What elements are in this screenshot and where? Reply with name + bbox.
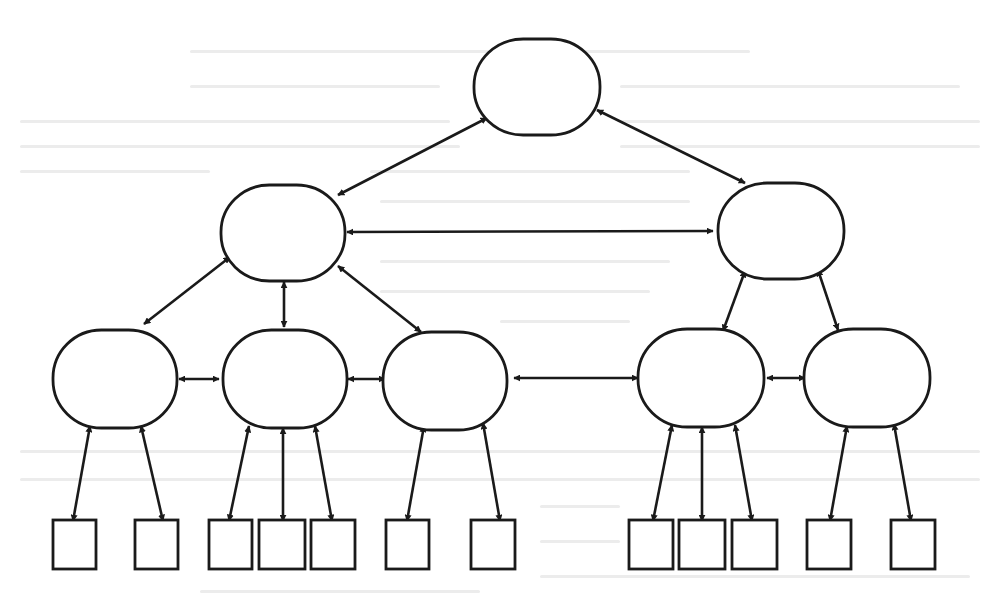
edge-m1-m2 (347, 231, 713, 232)
tree-node-l5 (804, 329, 930, 427)
leaf-box-b8 (629, 520, 673, 569)
edge-l5-b11 (830, 426, 847, 521)
tree-node-l2 (223, 330, 347, 428)
edge-l1-b2 (141, 426, 163, 521)
edge-root-m2 (597, 110, 745, 183)
edge-l5-b12 (894, 424, 911, 521)
edge-m2-l5 (818, 270, 838, 330)
leaf-box-b12 (891, 520, 935, 569)
leaf-box-b10 (732, 520, 777, 569)
leaf-box-b9 (679, 520, 725, 569)
edge-l2-b3 (229, 426, 249, 521)
leaf-box-b6 (386, 520, 429, 569)
edge-l1-b1 (73, 426, 90, 521)
tree-node-root (474, 39, 600, 135)
leaf-box-b7 (471, 520, 515, 569)
tree-node-m2 (718, 183, 844, 279)
edge-m1-l1 (144, 257, 230, 324)
edge-root-m1 (338, 118, 487, 195)
edge-l3-b6 (407, 426, 424, 521)
leaf-box-b11 (807, 520, 851, 569)
leaf-box-b1 (53, 520, 96, 569)
edge-m1-l3 (338, 266, 421, 332)
edge-l4-b8 (653, 425, 672, 521)
edge-l3-b7 (483, 423, 500, 521)
tree-node-m1 (221, 185, 345, 281)
leaf-box-b4 (259, 520, 305, 569)
edge-l4-b10 (735, 425, 752, 521)
edge-m2-l4 (723, 271, 745, 331)
tree-diagram (0, 0, 995, 613)
edge-l2-b5 (315, 426, 332, 521)
tree-node-l1 (53, 330, 177, 428)
leaf-box-b2 (135, 520, 178, 569)
edge-layer (73, 110, 911, 521)
tree-node-l4 (638, 329, 764, 427)
leaf-box-b3 (209, 520, 252, 569)
leaf-box-b5 (311, 520, 355, 569)
tree-node-l3 (383, 332, 507, 430)
